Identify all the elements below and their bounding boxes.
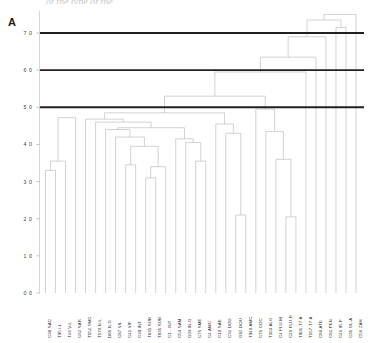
dendrogram-link [266, 131, 284, 293]
dendrogram-links [46, 14, 357, 293]
leaf-label: C80 ATE [318, 320, 323, 338]
dendrogram-link [51, 161, 66, 293]
dendrogram-link [165, 96, 266, 113]
leaf-label: C76 COC [258, 318, 263, 338]
dendrogram-link [116, 137, 145, 293]
dendrogram-link [106, 130, 130, 293]
leaf-label: C81 PEN [328, 319, 333, 338]
leaf-label: T835 SUB [157, 317, 162, 338]
dendrogram-link [151, 167, 166, 293]
leaf-label: G03 IN-G [187, 318, 192, 338]
leaf-label: C10 SAE [217, 319, 222, 338]
dendrogram-link [256, 109, 275, 293]
leaf-label: T901-T7 A [298, 317, 303, 338]
y-tick-label: 5 0 [11, 104, 33, 110]
leaf-label: C56 ZAH [358, 319, 363, 338]
leaf-label: T835 SUB [147, 317, 152, 338]
y-tick-label: 2 0 [11, 216, 33, 222]
dendrogram-link [196, 161, 206, 293]
leaf-label: T570 N-L [97, 319, 102, 338]
y-tick-label: 7 0 [11, 30, 33, 36]
leaf-label: D85 N-G [107, 320, 112, 338]
y-tick-label: 1 0 [11, 253, 33, 259]
leaf-label: T552 TMC [87, 317, 92, 338]
dendrogram-link [176, 139, 194, 293]
leaf-label: C53 SAM [177, 319, 182, 338]
leaf-label: T557-T7 A [308, 317, 313, 338]
dendrogram-link [216, 124, 234, 293]
y-axis [37, 11, 40, 293]
dendrogram-link [96, 122, 152, 293]
leaf-label: C41 VIF [127, 321, 132, 338]
dendrogram-link [126, 165, 136, 293]
y-tick-label: 0 0 [11, 290, 33, 296]
y-tick-label: 3 0 [11, 179, 33, 185]
leaf-label: C32 DOU [227, 318, 232, 338]
dendrogram-link [324, 14, 356, 293]
leaf-label: C76 SME [197, 319, 202, 338]
dendrogram-link [260, 57, 316, 293]
leaf-label: C38 SAC [47, 319, 52, 338]
leaf-label: T940 AMC [248, 317, 253, 339]
dendrogram-link [131, 146, 159, 166]
dendrogram-plot [0, 0, 368, 343]
leaf-label: C4 FLU-M [278, 317, 283, 338]
dendrogram-link [288, 37, 326, 293]
dendrogram-link [286, 217, 296, 293]
dendrogram-link [226, 133, 241, 293]
leaf-label: C39 INT [137, 321, 142, 338]
dendrogram-link [236, 215, 246, 293]
dendrogram-link [215, 72, 306, 293]
leaf-label: C40 FLU-R [288, 315, 293, 338]
dendrogram-link [146, 178, 156, 293]
leaf-label: C35 GL-A [348, 318, 353, 338]
leaf-label: C46 IR-P [338, 319, 343, 338]
dendrogram-link [86, 119, 124, 293]
dendrogram-link [58, 118, 76, 293]
dendrogram-link [46, 170, 56, 293]
leaf-label: T43 V-L [67, 322, 72, 338]
y-tick-label: 6 0 [11, 67, 33, 73]
leaf-label: C62 SAR [77, 319, 82, 338]
leaf-label: C87 VIL [117, 321, 122, 338]
dendrogram-link [186, 143, 201, 293]
leaf-label: G82 DOU [238, 318, 243, 338]
dendrogram-figure: of the type of the A 7 06 05 04 03 02 01… [0, 0, 368, 343]
leaf-label: C4 AMC [207, 321, 212, 338]
leaf-label: T363 ALG [268, 317, 273, 338]
dendrogram-link [336, 27, 346, 293]
leaf-label: T95 I-L [57, 323, 62, 338]
dendrogram-link [276, 159, 291, 293]
leaf-label: C1 - INT [167, 321, 172, 338]
y-tick-label: 4 0 [11, 141, 33, 147]
